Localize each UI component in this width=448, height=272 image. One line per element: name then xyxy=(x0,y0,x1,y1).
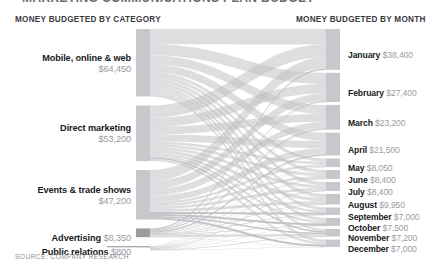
category-label[interactable]: Events & trade shows$47,200 xyxy=(38,185,131,207)
category-label-name: Events & trade shows xyxy=(38,185,131,196)
category-label[interactable]: Mobile, online & web$64,450 xyxy=(42,53,131,75)
month-label[interactable]: January $38,400 xyxy=(348,45,413,61)
month-label-value: $27,400 xyxy=(384,88,417,98)
sankey-node-month[interactable] xyxy=(326,229,340,237)
month-label-name: March xyxy=(348,118,373,128)
category-label[interactable]: Direct marketing$53,200 xyxy=(60,123,131,145)
sankey-node-month[interactable] xyxy=(326,73,340,102)
month-label-value: $21,500 xyxy=(367,145,400,155)
category-label-name: Direct marketing xyxy=(60,123,131,134)
month-label-name: December xyxy=(348,244,389,254)
sankey-link xyxy=(150,234,326,237)
category-label-value: $64,450 xyxy=(42,64,131,75)
sankey-node-month[interactable] xyxy=(326,105,340,130)
sankey-node-month[interactable] xyxy=(326,158,340,167)
sankey-node-category[interactable] xyxy=(136,246,150,247)
sankey-node-category[interactable] xyxy=(136,170,150,219)
month-label[interactable]: March $23,200 xyxy=(348,113,405,129)
sankey-node-month[interactable] xyxy=(326,29,340,70)
sankey-node-month[interactable] xyxy=(326,182,340,191)
source-note: SOURCE: COMPANY RESEARCH xyxy=(15,253,129,260)
sankey-node-month[interactable] xyxy=(326,170,340,179)
sankey-node-month[interactable] xyxy=(326,218,340,226)
sankey-node-month[interactable] xyxy=(326,240,340,247)
sankey-link-group xyxy=(150,29,326,250)
month-label-value: $38,400 xyxy=(380,50,413,60)
sankey-link xyxy=(150,29,326,44)
sankey-node-month[interactable] xyxy=(326,207,340,214)
month-label-value: $7,000 xyxy=(389,244,417,254)
sankey-node-category[interactable] xyxy=(136,29,150,96)
month-label-value: $23,200 xyxy=(373,118,406,128)
category-label-name: Mobile, online & web xyxy=(42,53,131,64)
month-label[interactable]: February $27,400 xyxy=(348,83,417,99)
sankey-node-category[interactable] xyxy=(136,105,150,161)
month-label-name: February xyxy=(348,88,384,98)
infographic-root: MARKETING COMMUNICATIONS PLAN BUDGET MON… xyxy=(0,0,448,272)
sankey-node-month[interactable] xyxy=(326,133,340,156)
month-label[interactable]: April $21,500 xyxy=(348,140,400,156)
sankey-node-month[interactable] xyxy=(326,194,340,205)
sankey-node-category[interactable] xyxy=(136,228,150,237)
month-label[interactable]: December $7,000 xyxy=(348,239,417,255)
month-label-name: January xyxy=(348,50,380,60)
month-label-name: April xyxy=(348,145,367,155)
category-label-value: $53,200 xyxy=(60,134,131,145)
category-label-value: $47,200 xyxy=(38,196,131,207)
